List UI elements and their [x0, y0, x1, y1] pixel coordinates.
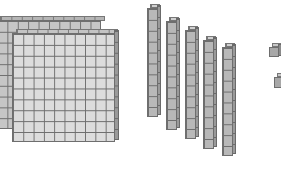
cube-front-face — [269, 47, 279, 57]
rod-front-face — [166, 21, 177, 130]
flat-front-face — [12, 33, 115, 142]
rod-front-face — [147, 8, 158, 117]
rod-front-face — [203, 40, 214, 149]
rod-front-face — [185, 30, 196, 139]
rod-front-face — [222, 47, 233, 156]
cube-front-face — [274, 77, 281, 88]
